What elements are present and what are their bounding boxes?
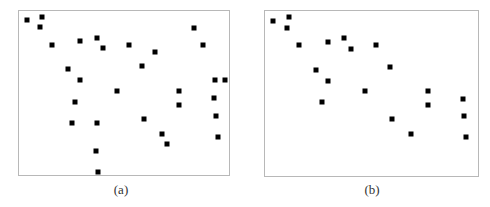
scatter-marker (73, 99, 78, 104)
scatter-marker (101, 46, 106, 51)
scatter-marker (94, 36, 99, 41)
scatter-marker (78, 78, 83, 83)
scatter-marker (177, 103, 182, 108)
scatter-marker (223, 78, 228, 83)
panel-a-caption: (a) (114, 182, 128, 198)
scatter-marker (212, 96, 217, 101)
scatter-marker (201, 43, 206, 48)
scatter-marker (141, 117, 146, 122)
scatter-marker (409, 132, 414, 137)
scatter-marker (66, 67, 71, 72)
scatter-marker (285, 26, 290, 31)
scatter-marker (342, 36, 347, 41)
scatter-marker (24, 18, 29, 23)
scatter-marker (325, 78, 330, 83)
scatter-marker (349, 46, 354, 51)
scatter-marker (388, 65, 393, 70)
scatter-marker (297, 43, 302, 48)
scatter-marker (69, 120, 74, 125)
panel-b-caption: (b) (364, 182, 379, 198)
scatter-marker (425, 89, 430, 94)
scatter-marker (78, 39, 83, 44)
scatter-marker (126, 42, 131, 47)
scatter-marker (362, 89, 367, 94)
scatter-marker (160, 131, 165, 136)
scatter-marker (212, 78, 217, 83)
scatter-marker (177, 89, 182, 94)
scatter-marker (165, 142, 170, 147)
scatter-marker (38, 25, 43, 30)
scatter-marker (153, 50, 158, 55)
scatter-marker (325, 40, 330, 45)
scatter-marker (214, 114, 219, 119)
scatter-marker (390, 117, 395, 122)
scatter-marker (40, 14, 45, 19)
scatter-marker (314, 68, 319, 73)
scatter-marker (216, 135, 221, 140)
scatter-marker (460, 96, 465, 101)
scatter-marker (462, 114, 467, 119)
scatter-marker (374, 43, 379, 48)
scatter-marker (49, 42, 54, 47)
scatter-marker (464, 135, 469, 140)
scatter-marker (286, 15, 291, 20)
scatter-marker (192, 25, 197, 30)
scatter-marker (96, 170, 101, 175)
panel-a-frame (18, 10, 230, 176)
panel-b-frame (264, 10, 479, 177)
scatter-marker (271, 18, 276, 23)
scatter-marker (320, 100, 325, 105)
scatter-marker (425, 103, 430, 108)
scatter-marker (94, 149, 99, 154)
scatter-marker (140, 64, 145, 69)
scatter-marker (114, 89, 119, 94)
scatter-marker (94, 120, 99, 125)
